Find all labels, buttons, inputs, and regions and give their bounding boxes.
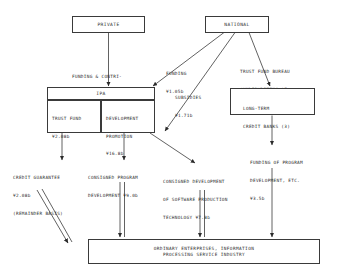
node-trust-fund-line2: ¥2.08b (52, 134, 97, 140)
node-trust-fund[interactable]: TRUST FUND ¥2.08b (47, 100, 101, 133)
edge-label-subsidies: SUBSIDIES ¥1.71b (175, 83, 202, 131)
edge-label-credit-guarantee: CREDIT GUARANTEE ¥2.08b (REMAINDER BASIS… (13, 163, 63, 228)
node-development-promotion-line3: ¥16.8b (106, 151, 151, 157)
edge-label-funding-contributions-line1: FUNDING & CONTRI- (72, 74, 122, 80)
diagram-canvas: PRIVATE NATIONAL FUNDING & CONTRI- BUTIO… (0, 0, 343, 273)
edge-label-credit-guarantee-line3: (REMAINDER BASIS) (13, 211, 63, 217)
edge-label-subsidies-line1: SUBSIDIES (175, 95, 202, 101)
node-long-term-credit-banks-line2: CREDIT BANKS (3) (243, 124, 311, 130)
edge-label-consigned-software-development-line3: TECHNOLOGY ¥7.8b (163, 215, 228, 221)
node-trust-fund-line1: TRUST FUND (52, 116, 97, 122)
edge-label-credit-guarantee-line2: ¥2.08b (13, 193, 63, 199)
node-ipa-header[interactable]: IPA (47, 87, 155, 100)
edge-label-funding-of-program-development: FUNDING OF PROGRAM DEVELOPMENT, ETC. ¥3.… (250, 148, 303, 213)
edge-label-consigned-program-development-line2: DEVELOPMENT ¥9.0b (88, 193, 138, 199)
edge-label-credit-guarantee-line1: CREDIT GUARANTEE (13, 175, 63, 181)
node-long-term-credit-banks-line1: LONG-TERM (243, 106, 311, 112)
node-ordinary-enterprises[interactable]: ORDINARY ENTERPRISES, INFORMATION PROCES… (88, 239, 320, 264)
edge-label-consigned-software-development: CONSIGNED DEVELOPMENT OF SOFTWARE PRODUC… (163, 167, 228, 232)
node-national[interactable]: NATIONAL (205, 16, 269, 33)
node-development-promotion[interactable]: DEVELOPMENT PROMOTION ¥16.8b (101, 100, 155, 133)
edge-label-funding-line1: FUNDING (166, 71, 187, 77)
node-long-term-credit-banks[interactable]: LONG-TERM CREDIT BANKS (3) (230, 88, 315, 115)
node-development-promotion-line2: PROMOTION (106, 134, 151, 140)
edge-label-consigned-software-development-line1: CONSIGNED DEVELOPMENT (163, 179, 228, 185)
edge-label-trust-fund-bureau-line1: TRUST FUND BUREAU (240, 69, 290, 75)
edge-label-funding-of-program-development-line1: FUNDING OF PROGRAM (250, 160, 303, 166)
edge-label-consigned-program-development: CONSIGNED PROGRAM DEVELOPMENT ¥9.0b (88, 163, 138, 211)
node-national-label: NATIONAL (224, 22, 249, 28)
node-ipa-label: IPA (96, 91, 106, 97)
node-private[interactable]: PRIVATE (72, 16, 145, 33)
edge-label-consigned-program-development-line1: CONSIGNED PROGRAM (88, 175, 138, 181)
edge-label-funding-of-program-development-line2: DEVELOPMENT, ETC. (250, 178, 303, 184)
node-development-promotion-line1: DEVELOPMENT (106, 116, 151, 122)
node-ordinary-enterprises-line2: PROCESSING SERVICE INDUSTRY (163, 252, 245, 258)
node-private-label: PRIVATE (97, 22, 119, 28)
edge-label-funding-of-program-development-line3: ¥3.5b (250, 196, 303, 202)
edge-label-subsidies-line2: ¥1.71b (175, 113, 202, 119)
edge-label-consigned-software-development-line2: OF SOFTWARE PRODUCTION (163, 197, 228, 203)
